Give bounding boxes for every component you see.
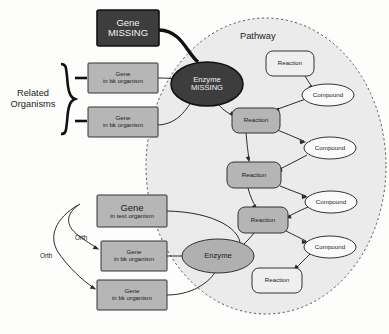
node-gene-bk-third[interactable] bbox=[101, 241, 167, 271]
diagram-shapes-layer bbox=[0, 0, 389, 334]
node-gene-bk-top[interactable] bbox=[88, 63, 158, 93]
node-reaction-2[interactable] bbox=[232, 108, 280, 133]
node-gene-bk-second[interactable] bbox=[88, 107, 158, 137]
node-enzyme-missing[interactable] bbox=[171, 62, 243, 106]
edge-gene-missing-to-enzyme-missing bbox=[159, 30, 198, 62]
node-compound-2[interactable] bbox=[304, 137, 356, 159]
node-gene-test[interactable] bbox=[97, 195, 167, 227]
node-reaction-3[interactable] bbox=[227, 162, 281, 188]
node-reaction-5[interactable] bbox=[252, 268, 302, 293]
node-reaction-1[interactable] bbox=[266, 51, 314, 76]
edge-orth-test-to-bk-fourth bbox=[54, 205, 94, 288]
diagram-canvas: Gene MISSING Gene in bk organism Gene in… bbox=[0, 0, 389, 334]
node-compound-3[interactable] bbox=[305, 191, 357, 213]
node-compound-4[interactable] bbox=[304, 236, 356, 258]
edge-orth-test-to-bk-third bbox=[69, 204, 97, 248]
related-organisms-brace bbox=[61, 64, 75, 134]
node-gene-bk-fourth[interactable] bbox=[97, 280, 167, 310]
node-reaction-4[interactable] bbox=[238, 207, 288, 233]
node-gene-missing[interactable] bbox=[97, 10, 159, 46]
node-enzyme[interactable] bbox=[182, 239, 254, 273]
node-compound-1[interactable] bbox=[302, 84, 354, 106]
